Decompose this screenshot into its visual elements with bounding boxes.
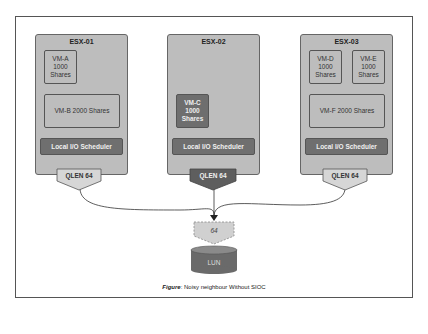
- qlen-label-esx-03: QLEN 64: [320, 172, 370, 179]
- figure-caption: Figure: Noisy neighbour Without SIOC: [0, 284, 428, 290]
- queue-depth-label: 64: [189, 227, 239, 234]
- arrowhead-icon: [210, 215, 218, 221]
- lun-label: LUN: [189, 259, 239, 266]
- caption-prefix: Figure: [162, 284, 180, 290]
- qlen-label-esx-01: QLEN 64: [54, 172, 104, 179]
- lun-cylinder-bottom: [191, 266, 237, 274]
- connector-esx-03: [214, 188, 345, 215]
- qlen-label-esx-02: QLEN 64: [188, 172, 238, 179]
- connector-esx-01: [80, 188, 214, 215]
- lun-cylinder-top: [191, 246, 237, 254]
- caption-text: : Noisy neighbour Without SIOC: [181, 284, 266, 290]
